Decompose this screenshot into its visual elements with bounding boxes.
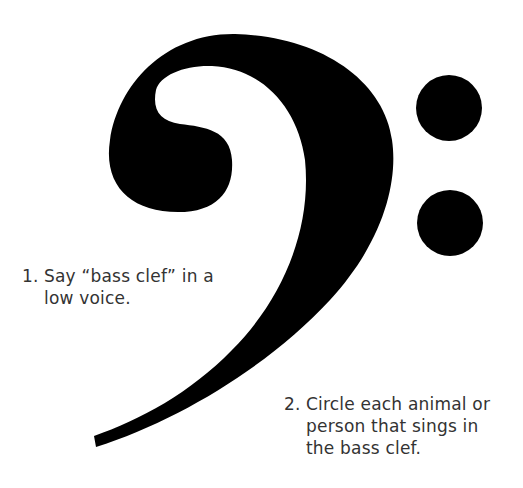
instruction-line: low voice. [44,287,214,309]
instruction-2: 2. Circle each animal or person that sin… [284,393,490,459]
instruction-1: 1. Say “bass clef” in a low voice. [22,265,214,309]
instruction-line: Say “bass clef” in a [44,265,214,287]
instruction-number: 1. [22,265,44,309]
instruction-line: Circle each animal or [306,393,490,415]
bass-clef-body [94,34,393,447]
instruction-number: 2. [284,393,306,459]
lower-dot-icon [417,190,483,256]
instruction-line: person that sings in [306,415,490,437]
upper-dot-icon [416,75,482,141]
instruction-line: the bass clef. [306,437,490,459]
